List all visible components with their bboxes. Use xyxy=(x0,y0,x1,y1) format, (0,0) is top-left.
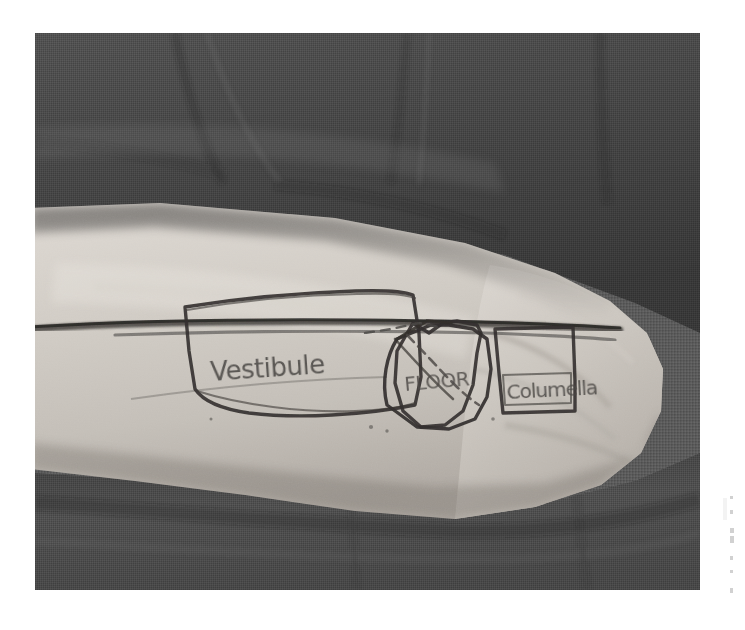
photograph-canvas: Vestibule FLOOR Columella xyxy=(35,33,700,590)
page-root: Vestibule FLOOR Columella xyxy=(0,0,745,630)
photograph: Vestibule FLOOR Columella xyxy=(35,33,700,590)
scan-artifact-canvas xyxy=(722,492,740,600)
photo-grain-overlay xyxy=(35,33,700,590)
scan-artifact-marks: faint illegible vertical scan artifact m… xyxy=(722,492,740,600)
